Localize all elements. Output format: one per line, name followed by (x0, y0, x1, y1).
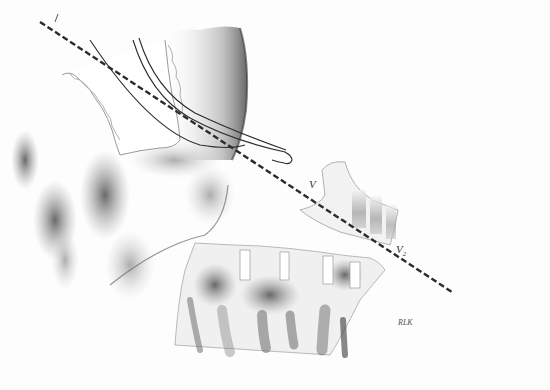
label-v2-subscript: 2 (403, 250, 407, 258)
anatomical-illustration: V V2 RLK (0, 0, 550, 390)
lower-teeth (175, 243, 385, 355)
illustration-drawing (0, 0, 550, 390)
artist-signature: RLK (398, 319, 413, 327)
label-v: V (309, 179, 316, 190)
label-v2: V2 (396, 244, 406, 258)
guide-line-start-tick (55, 14, 58, 22)
label-v2-main: V (396, 243, 403, 255)
